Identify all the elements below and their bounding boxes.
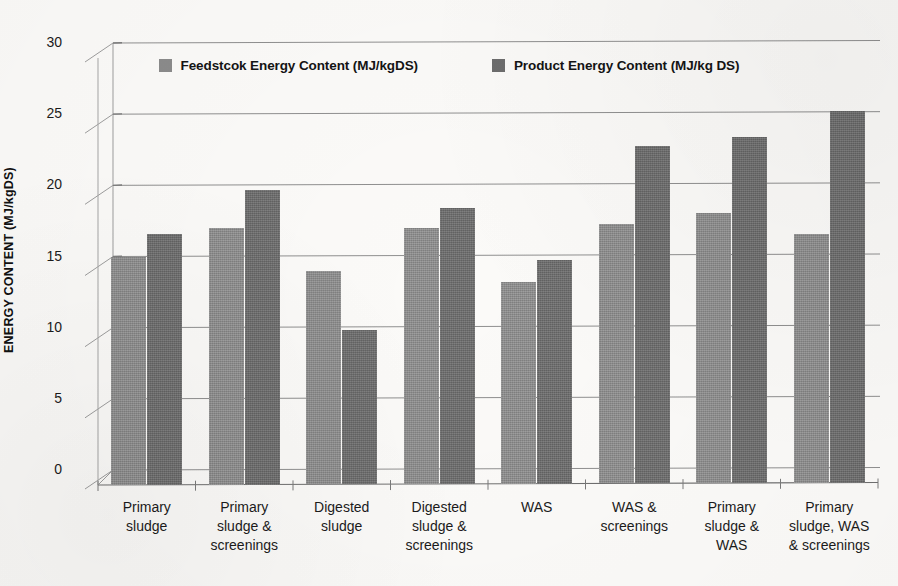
category-label-line: sludge [100,517,194,536]
category-label-line: Primary [198,498,292,517]
category-label-2: Digestedsludge [293,498,391,586]
bar-product-7 [830,111,865,482]
bar-product-5 [635,146,670,483]
x-axis-category-labels: PrimarysludgePrimarysludge &screeningsDi… [98,498,878,586]
category-label-4: WAS [488,498,586,586]
category-label-5: WAS &screenings [586,498,684,586]
category-label-3: Digestedsludge &screenings [391,498,489,586]
category-label-line: sludge & [685,517,779,536]
bar-feedstock-1 [209,228,244,484]
bar-product-0 [147,234,182,485]
category-label-line: sludge & [198,517,292,536]
category-label-line: WAS [490,498,584,517]
category-label-line: Digested [295,498,389,517]
category-label-line: & screenings [783,536,877,555]
category-label-line: screenings [588,517,682,536]
bar-product-4 [537,260,572,483]
bar-feedstock-0 [111,257,146,485]
category-label-line: screenings [393,536,487,555]
energy-content-bar-chart: ENERGY CONTENT (MJ/kgDS) 302520151050 Fe… [0,0,898,586]
category-label-line: sludge & [393,517,487,536]
bar-feedstock-6 [696,213,731,483]
bar-product-3 [440,208,475,484]
category-label-6: Primarysludge &WAS [683,498,781,586]
bar-product-1 [245,190,280,485]
category-label-7: Primarysludge, WAS& screenings [781,498,879,586]
bar-product-6 [732,137,767,483]
category-label-line: Digested [393,498,487,517]
category-label-line: Primary [783,498,877,517]
bar-feedstock-5 [599,224,634,483]
category-label-1: Primarysludge &screenings [196,498,294,586]
category-label-0: Primarysludge [98,498,196,586]
bar-feedstock-3 [404,228,439,484]
category-label-line: WAS & [588,498,682,517]
bar-feedstock-2 [306,271,341,485]
bar-feedstock-4 [501,282,536,484]
bar-feedstock-7 [794,234,829,483]
category-label-line: screenings [198,536,292,555]
category-label-line: Primary [685,498,779,517]
category-label-line: Primary [100,498,194,517]
category-label-line: WAS [685,536,779,555]
category-label-line: sludge [295,517,389,536]
bar-product-2 [342,330,377,484]
category-label-line: sludge, WAS [783,517,877,536]
